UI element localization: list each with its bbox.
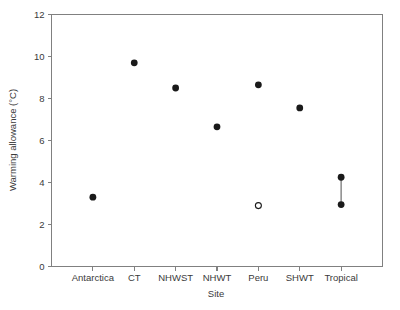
y-axis-ticks: 024681012 bbox=[34, 9, 52, 272]
x-tick-label: NHWST bbox=[158, 272, 193, 283]
data-points bbox=[89, 59, 344, 208]
x-tick-label: Peru bbox=[248, 272, 268, 283]
x-tick-label: CT bbox=[128, 272, 141, 283]
data-point-filled bbox=[89, 194, 96, 201]
y-tick-label: 4 bbox=[39, 177, 44, 188]
y-tick-label: 12 bbox=[34, 9, 45, 20]
data-point-filled bbox=[338, 174, 345, 181]
y-tick-label: 6 bbox=[39, 135, 44, 146]
data-point-filled bbox=[172, 85, 179, 92]
chart-figure: 024681012 AntarcticaCTNHWSTNHWTPeruSHWTT… bbox=[0, 0, 400, 310]
x-tick-label: NHWT bbox=[203, 272, 232, 283]
y-tick-label: 8 bbox=[39, 93, 44, 104]
data-point-open bbox=[255, 203, 261, 209]
data-point-filled bbox=[214, 123, 221, 130]
x-axis-title: Site bbox=[208, 288, 224, 299]
x-tick-label: Antarctica bbox=[72, 272, 115, 283]
x-tick-label: SHWT bbox=[286, 272, 314, 283]
y-tick-label: 0 bbox=[39, 261, 44, 272]
y-tick-label: 10 bbox=[34, 51, 45, 62]
data-point-filled bbox=[131, 59, 138, 66]
x-axis-ticks: AntarcticaCTNHWSTNHWTPeruSHWTTropical bbox=[72, 267, 358, 284]
y-axis-title: Warming allowance (°C) bbox=[7, 89, 18, 191]
x-tick-label: Tropical bbox=[324, 272, 357, 283]
data-point-filled bbox=[338, 201, 345, 208]
plot-frame bbox=[52, 15, 383, 267]
data-point-filled bbox=[255, 81, 262, 88]
data-point-filled bbox=[296, 105, 303, 112]
scatter-plot: 024681012 AntarcticaCTNHWSTNHWTPeruSHWTT… bbox=[0, 0, 400, 310]
y-tick-label: 2 bbox=[39, 219, 44, 230]
